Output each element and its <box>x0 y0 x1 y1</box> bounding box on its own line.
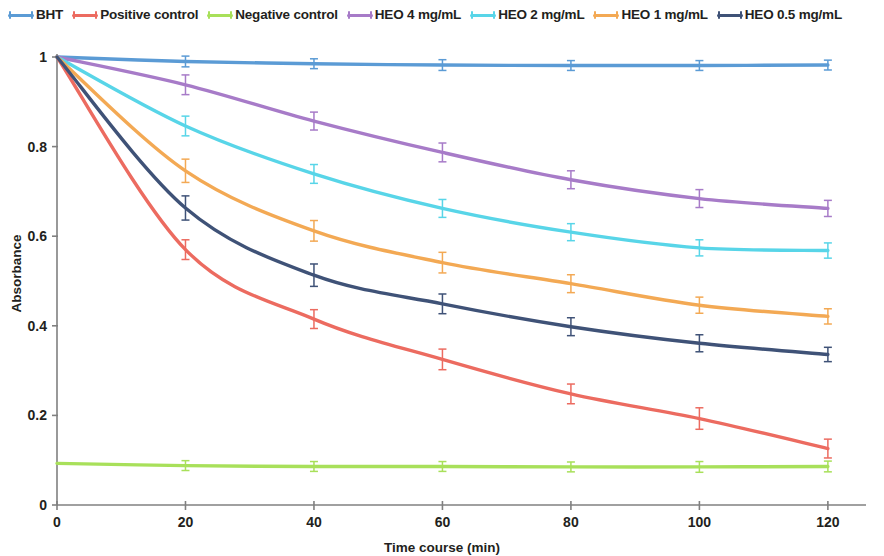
legend-item-label: Positive control <box>100 8 198 22</box>
legend-item-label: HEO 1 mg/mL <box>621 8 707 22</box>
chart-figure: BHTPositive controlNegative controlHEO 4… <box>0 0 884 556</box>
y-axis-tick-label: 0.8 <box>5 140 47 154</box>
plot-svg <box>0 30 884 530</box>
series-line <box>57 57 828 316</box>
x-axis-tick-label: 120 <box>803 515 853 529</box>
legend-item-label: BHT <box>36 8 63 22</box>
series-layer <box>57 56 832 472</box>
legend-line-icon <box>72 10 98 21</box>
legend-line-icon <box>347 10 373 21</box>
chart-legend: BHTPositive controlNegative controlHEO 4… <box>0 0 884 30</box>
legend-line-icon <box>8 10 34 21</box>
legend-item[interactable]: HEO 1 mg/mL <box>593 8 707 22</box>
y-axis-tick-label: 0 <box>5 498 47 512</box>
legend-line-icon <box>470 10 496 21</box>
x-axis-tick-label: 80 <box>546 515 596 529</box>
legend-line-icon <box>593 10 619 21</box>
y-axis-tick-label: 0.2 <box>5 408 47 422</box>
x-axis-tick-label: 100 <box>674 515 724 529</box>
y-axis-tick-label: 1 <box>5 50 47 64</box>
legend-item[interactable]: HEO 2 mg/mL <box>470 8 584 22</box>
series-line <box>57 57 828 208</box>
plot-area: 00.20.40.60.81020406080100120 Absorbance <box>0 30 884 530</box>
legend-item[interactable]: HEO 4 mg/mL <box>347 8 461 22</box>
legend-item[interactable]: HEO 0.5 mg/mL <box>717 8 842 22</box>
legend-item-label: Negative control <box>235 8 338 22</box>
series-heo-4-mg-ml <box>57 57 832 216</box>
x-axis-title: Time course (min) <box>0 540 884 555</box>
series-bht <box>57 56 832 70</box>
x-axis-tick-label: 40 <box>289 515 339 529</box>
legend-item-label: HEO 4 mg/mL <box>375 8 461 22</box>
series-heo-1-mg-ml <box>57 57 832 324</box>
legend-item[interactable]: Negative control <box>207 8 338 22</box>
y-axis-title: Absorbance <box>9 214 24 334</box>
legend-item[interactable]: Positive control <box>72 8 198 22</box>
x-axis-tick-label: 0 <box>32 515 82 529</box>
legend-line-icon <box>207 10 233 21</box>
legend-item-label: HEO 2 mg/mL <box>498 8 584 22</box>
series-negative-control <box>57 461 832 473</box>
series-positive-control <box>57 57 832 458</box>
legend-item-label: HEO 0.5 mg/mL <box>745 8 842 22</box>
x-axis-tick-label: 60 <box>417 515 467 529</box>
legend-item[interactable]: BHT <box>8 8 63 22</box>
series-heo-2-mg-ml <box>57 57 832 258</box>
x-axis-tick-label: 20 <box>160 515 210 529</box>
legend-line-icon <box>717 10 743 21</box>
